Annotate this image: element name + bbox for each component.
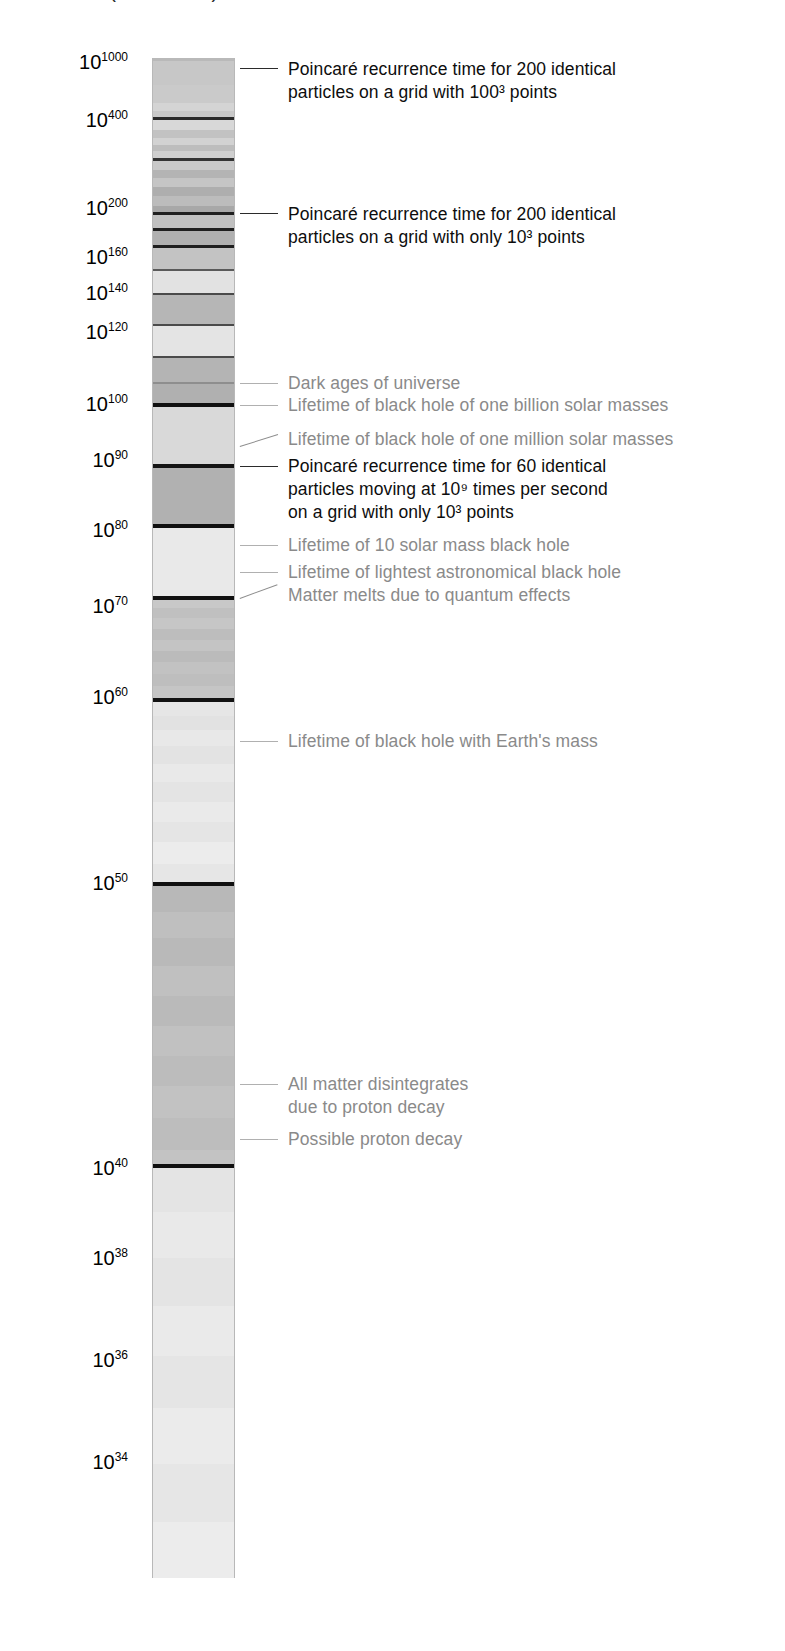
leader-line-all-matter-disintegrates	[240, 1084, 278, 1085]
tick-exponent: 40	[115, 1156, 128, 1170]
scale-band	[153, 468, 234, 524]
scale-band	[153, 822, 234, 842]
tick-exponent: 400	[108, 108, 128, 122]
leader-line-lifetime-lightest-astronomical-bh	[240, 572, 278, 573]
leader-line-matter-melts-quantum-effects	[240, 584, 279, 600]
tick-exponent: 120	[108, 320, 128, 334]
axis-tick-10e36: 1036	[92, 1350, 128, 1370]
tick-exponent: 50	[115, 871, 128, 885]
scale-band	[153, 1306, 234, 1356]
scale-band	[153, 764, 234, 782]
axis-tick-10e40: 1040	[92, 1158, 128, 1178]
scale-band	[153, 1356, 234, 1408]
log-time-scale-figure: Time (in seconds) 1010001040010200101601…	[0, 0, 785, 1651]
tick-exponent: 70	[115, 594, 128, 608]
scale-band	[153, 1086, 234, 1118]
annotation-dark-ages-of-universe: Dark ages of universe	[288, 372, 460, 395]
leader-line-lifetime-10-solar-mass-bh	[240, 545, 278, 546]
scale-band	[153, 629, 234, 640]
scale-band	[153, 608, 234, 618]
leader-line-poincare-200-100cubed	[240, 68, 278, 69]
leader-line-poincare-200-10cubed	[240, 213, 278, 214]
tick-base: 10	[86, 282, 108, 304]
scale-band	[153, 1168, 234, 1212]
scale-band	[153, 170, 234, 178]
scale-band	[153, 326, 234, 356]
scale-band	[153, 61, 234, 85]
scale-band	[153, 1522, 234, 1578]
scale-band	[153, 782, 234, 802]
scale-band	[153, 120, 234, 130]
annotation-lifetime-bh-one-million-solar-masses: Lifetime of black hole of one million so…	[288, 428, 673, 451]
tick-base: 10	[92, 1247, 114, 1269]
scale-band	[153, 640, 234, 651]
scale-band	[153, 746, 234, 764]
tick-exponent: 160	[108, 245, 128, 259]
scale-band	[153, 1408, 234, 1464]
tick-base: 10	[86, 393, 108, 415]
leader-line-lifetime-bh-one-million-solar-masses	[240, 434, 279, 448]
leader-line-lifetime-bh-earth-mass	[240, 741, 278, 742]
scale-band	[153, 996, 234, 1026]
scale-band	[153, 161, 234, 170]
tick-base: 10	[86, 197, 108, 219]
leader-line-lifetime-bh-one-billion-solar-masses	[240, 405, 278, 406]
scale-band	[153, 271, 234, 293]
scale-band	[153, 295, 234, 324]
annotation-lifetime-bh-earth-mass: Lifetime of black hole with Earth's mass	[288, 730, 598, 753]
scale-band	[153, 248, 234, 269]
scale-band	[153, 528, 234, 596]
scale-band	[153, 1212, 234, 1258]
scale-band	[153, 912, 234, 938]
scale-band	[153, 966, 234, 996]
annotation-poincare-60-particles: Poincaré recurrence time for 60 identica…	[288, 455, 608, 524]
scale-band	[153, 802, 234, 822]
tick-exponent: 38	[115, 1246, 128, 1260]
axis-tick-10e1000: 101000	[79, 52, 128, 72]
scale-band	[153, 886, 234, 912]
tick-exponent: 60	[115, 685, 128, 699]
scale-band	[153, 187, 234, 196]
axis-tick-labels: 1010001040010200101601014010120101001090…	[0, 0, 128, 1651]
tick-exponent: 80	[115, 518, 128, 532]
scale-band	[153, 1056, 234, 1086]
axis-tick-10e160: 10160	[86, 247, 128, 267]
scale-band	[153, 151, 234, 158]
axis-tick-10e140: 10140	[86, 283, 128, 303]
axis-tick-10e38: 1038	[92, 1248, 128, 1268]
scale-band	[153, 702, 234, 716]
tick-base: 10	[92, 595, 114, 617]
tick-base: 10	[86, 321, 108, 343]
annotation-poincare-200-100cubed: Poincaré recurrence time for 200 identic…	[288, 58, 616, 104]
leader-line-poincare-60-particles	[240, 466, 278, 467]
scale-band	[153, 1258, 234, 1306]
axis-tick-10e50: 1050	[92, 873, 128, 893]
leader-line-dark-ages-of-universe	[240, 383, 278, 384]
scale-band	[153, 358, 234, 382]
scale-band	[153, 85, 234, 103]
scale-band	[153, 1118, 234, 1150]
scale-band	[153, 103, 234, 111]
annotation-matter-melts-quantum-effects: Matter melts due to quantum effects	[288, 584, 570, 607]
tick-base: 10	[92, 1157, 114, 1179]
logarithmic-scale-bar	[152, 58, 235, 1578]
annotation-lifetime-bh-one-billion-solar-masses: Lifetime of black hole of one billion so…	[288, 394, 668, 417]
axis-tick-10e70: 1070	[92, 596, 128, 616]
scale-band	[153, 1464, 234, 1522]
annotation-lifetime-10-solar-mass-bh: Lifetime of 10 solar mass black hole	[288, 534, 570, 557]
tick-exponent: 1000	[101, 50, 128, 64]
scale-band	[153, 215, 234, 228]
scale-band	[153, 864, 234, 882]
scale-band	[153, 231, 234, 245]
scale-band	[153, 674, 234, 686]
axis-tick-10e90: 1090	[92, 450, 128, 470]
scale-band	[153, 130, 234, 138]
axis-tick-10e60: 1060	[92, 687, 128, 707]
tick-exponent: 36	[115, 1348, 128, 1362]
scale-band	[153, 178, 234, 187]
tick-base: 10	[92, 449, 114, 471]
scale-band	[153, 686, 234, 698]
scale-band	[153, 407, 234, 464]
leader-line-possible-proton-decay	[240, 1139, 278, 1140]
scale-band	[153, 730, 234, 746]
